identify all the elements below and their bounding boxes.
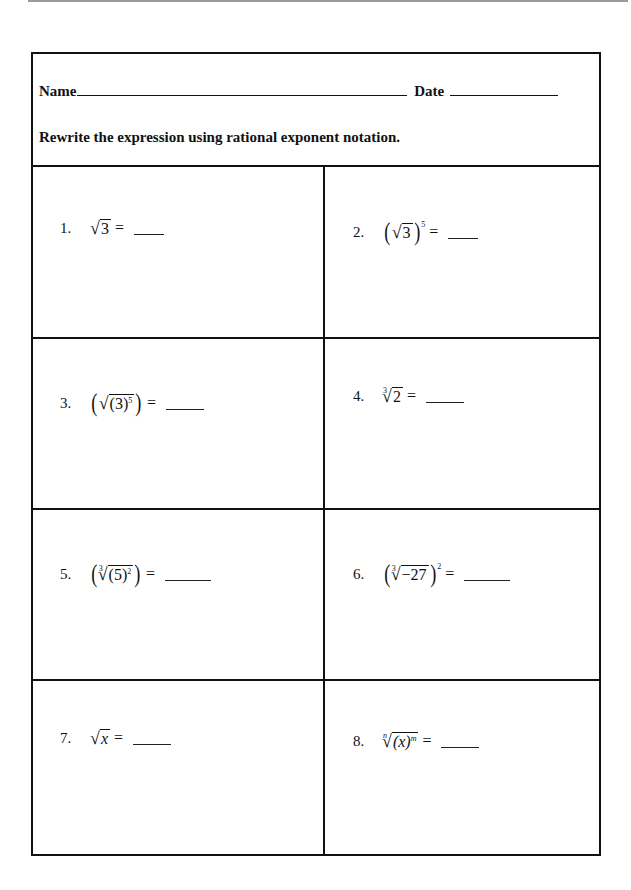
equals-sign: = [146, 565, 155, 583]
radicand-base: (5) [109, 566, 128, 583]
problem-5: 5. ( 3 √ (5)2 ) = [60, 561, 211, 587]
radicand: (3)5 [109, 394, 135, 413]
open-paren: ( [384, 561, 390, 587]
radical-sign-icon: √ [99, 394, 109, 412]
date-label: Date [414, 83, 444, 99]
problem-3: 3. ( √ (3)5 ) = [60, 390, 204, 416]
answer-blank[interactable] [448, 226, 478, 239]
radical-sign-icon: √ [90, 219, 100, 237]
outer-exponent: 5 [421, 220, 425, 229]
name-date-line: Name Date [39, 81, 558, 100]
radical-sign-icon: √ [392, 223, 402, 241]
problem-6: 6. ( 3 √ −27 ) 2 = [353, 561, 510, 587]
column-divider [323, 167, 325, 854]
radicand: (x)m [392, 732, 419, 751]
name-label: Name [39, 83, 77, 99]
radical-sign-icon: √ [90, 729, 100, 747]
top-rule [28, 0, 628, 2]
outer-exponent: 2 [437, 562, 441, 571]
date-field[interactable] [450, 81, 558, 96]
answer-blank[interactable] [134, 222, 164, 235]
open-paren: ( [384, 219, 390, 245]
radicand: 3 [100, 219, 111, 238]
equals-sign: = [445, 565, 454, 583]
equals-sign: = [147, 394, 156, 412]
expression: √ 3 = [90, 219, 128, 238]
problem-number: 3. [60, 395, 90, 412]
worksheet-frame: Name Date Rewrite the expression using r… [31, 52, 601, 856]
problem-1: 1. √ 3 = [60, 219, 164, 238]
radicand: 3 [402, 223, 413, 242]
answer-blank[interactable] [166, 397, 204, 410]
radicand: x [100, 729, 110, 748]
close-paren: ) [135, 561, 141, 587]
cube-root: 3 √ (5)2 [99, 565, 134, 584]
root-index: n [383, 731, 387, 740]
problem-grid: 1. √ 3 = 2. ( √ 3 ) 5 = [33, 167, 599, 854]
expression: ( 3 √ (5)2 ) = [90, 561, 159, 587]
problem-2: 2. ( √ 3 ) 5 = [353, 219, 478, 245]
radicand-base: (3) [110, 395, 129, 412]
close-paren: ) [414, 219, 420, 245]
expression: n √ (x)m = [383, 732, 435, 751]
row-divider [33, 337, 599, 339]
square-root: √ 3 [392, 223, 413, 242]
square-root: √ (3)5 [99, 394, 135, 413]
expression: 3 √ 2 = [383, 387, 420, 406]
answer-blank[interactable] [165, 568, 211, 581]
radicand: 2 [392, 387, 403, 406]
problem-number: 5. [60, 566, 90, 583]
instructions: Rewrite the expression using rational ex… [39, 129, 400, 146]
problem-number: 8. [353, 733, 383, 750]
inner-exponent: m [411, 734, 417, 743]
square-root: √ 3 [90, 219, 111, 238]
expression: ( 3 √ −27 ) 2 = [383, 561, 458, 587]
answer-blank[interactable] [133, 732, 171, 745]
root-index: 3 [383, 386, 387, 395]
root-index: 3 [99, 564, 103, 573]
inner-exponent: 2 [127, 566, 131, 575]
radicand-base: (x) [393, 733, 411, 750]
problem-number: 1. [60, 220, 90, 237]
problem-number: 7. [60, 730, 90, 747]
open-paren: ( [91, 390, 97, 416]
row-divider [33, 679, 599, 681]
cube-root: 3 √ 2 [383, 387, 403, 406]
close-paren: ) [430, 561, 436, 587]
worksheet-header: Name Date Rewrite the expression using r… [33, 54, 599, 167]
cube-root: 3 √ −27 [392, 565, 429, 584]
problem-number: 2. [353, 224, 383, 241]
close-paren: ) [136, 390, 142, 416]
equals-sign: = [422, 732, 431, 750]
problem-number: 4. [353, 388, 383, 405]
equals-sign: = [115, 219, 124, 237]
problem-number: 6. [353, 566, 383, 583]
row-divider [33, 508, 599, 510]
problem-4: 4. 3 √ 2 = [353, 387, 464, 406]
expression: ( √ (3)5 ) = [90, 390, 160, 416]
radicand: (5)2 [108, 565, 134, 584]
answer-blank[interactable] [441, 735, 479, 748]
expression: √ x = [90, 729, 127, 748]
expression: ( √ 3 ) 5 = [383, 219, 442, 245]
name-field[interactable] [77, 81, 407, 96]
problem-8: 8. n √ (x)m = [353, 732, 479, 751]
equals-sign: = [429, 223, 438, 241]
radicand: −27 [401, 565, 429, 584]
square-root: √ x [90, 729, 110, 748]
equals-sign: = [114, 729, 123, 747]
equals-sign: = [407, 387, 416, 405]
inner-exponent: 5 [128, 395, 132, 404]
answer-blank[interactable] [426, 390, 464, 403]
problem-7: 7. √ x = [60, 729, 171, 748]
open-paren: ( [91, 561, 97, 587]
root-index: 3 [392, 564, 396, 573]
answer-blank[interactable] [464, 568, 510, 581]
nth-root: n √ (x)m [383, 732, 418, 751]
